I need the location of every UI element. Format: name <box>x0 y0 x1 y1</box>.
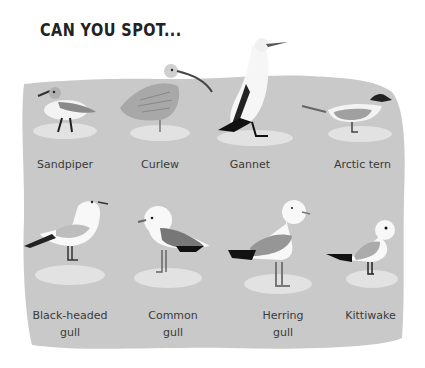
herring-gull-icon <box>228 200 310 286</box>
label-herring-gull: Herring gull <box>248 307 318 341</box>
common-gull-icon <box>138 206 210 272</box>
arctic-tern-icon <box>302 94 392 132</box>
label-curlew: Curlew <box>125 156 195 173</box>
black-headed-gull-icon <box>24 201 108 260</box>
label-gannet: Gannet <box>215 156 285 173</box>
label-arctic-tern: Arctic tern <box>320 156 405 173</box>
label-black-headed-gull: Black-headed gull <box>25 307 115 341</box>
kittiwake-icon <box>326 220 395 274</box>
gannet-icon <box>218 38 288 136</box>
curlew-icon <box>120 64 212 132</box>
label-common-gull: Common gull <box>138 307 208 341</box>
label-kittiwake: Kittiwake <box>333 307 408 324</box>
label-sandpiper: Sandpiper <box>30 156 100 173</box>
